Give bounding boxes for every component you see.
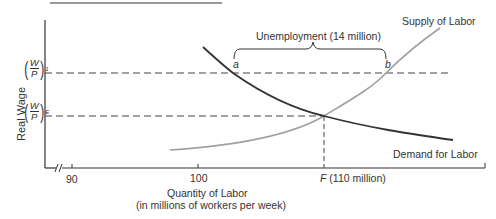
wage-high-denominator: P <box>31 69 37 79</box>
tick-label-90: 90 <box>66 173 78 185</box>
wage-high-numerator: W <box>30 58 39 68</box>
f-value: (110 million) <box>329 172 385 184</box>
supply-label: Supply of Labor <box>402 15 476 27</box>
tick-label-100: 100 <box>190 172 208 184</box>
wage-eq-numerator: W <box>30 101 39 111</box>
demand-label: Demand for Labor <box>393 148 478 160</box>
unemployment-label: Unemployment (14 million) <box>256 30 381 42</box>
f-letter: F <box>320 172 326 184</box>
demand-curve <box>203 47 453 140</box>
x-axis-sublabel: (in millions of workers per week) <box>136 199 286 211</box>
wage-high-subscript: 1 <box>45 66 48 72</box>
f-label: F (110 million) <box>320 172 386 184</box>
wage-equilibrium-label: ( WP )E <box>23 101 49 122</box>
point-b-label: b <box>385 58 391 70</box>
unemployment-brace <box>234 42 386 59</box>
x-axis-label: Quantity of Labor <box>167 187 248 199</box>
wage-high-label: ( WP )1 <box>23 58 49 79</box>
axis-break-icon <box>55 164 62 172</box>
point-a-label: a <box>233 58 239 70</box>
chart-canvas <box>0 0 496 219</box>
wage-eq-denominator: P <box>31 112 37 122</box>
wage-eq-subscript: E <box>45 109 49 115</box>
